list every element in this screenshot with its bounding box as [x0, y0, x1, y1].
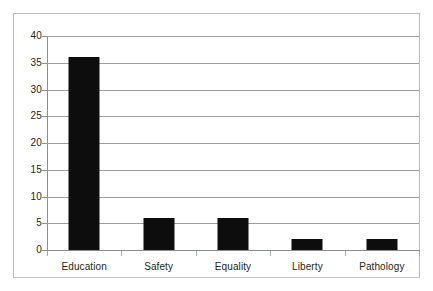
x-axis-tick [270, 251, 271, 256]
y-axis-tick [42, 116, 47, 117]
bar[interactable] [218, 218, 249, 250]
y-axis-tick-label: 10 [18, 192, 42, 202]
x-axis-category-label: Liberty [270, 257, 344, 277]
x-axis-category-labels: EducationSafetyEqualityLibertyPathology [47, 257, 419, 277]
bar[interactable] [69, 57, 100, 250]
bar[interactable] [292, 239, 323, 250]
bar-series [47, 36, 419, 250]
bar-slot [121, 36, 195, 250]
y-axis-tick-label: 35 [18, 58, 42, 68]
x-axis-tick [121, 251, 122, 256]
y-axis-tick [42, 143, 47, 144]
y-axis-tick-label: 5 [18, 218, 42, 228]
bar[interactable] [366, 239, 397, 250]
y-axis-tick-label: 0 [18, 245, 42, 255]
bar[interactable] [143, 218, 174, 250]
bar-slot [196, 36, 270, 250]
y-axis-tick [42, 223, 47, 224]
label-band-divider [15, 277, 420, 278]
y-axis-tick-label: 25 [18, 111, 42, 121]
y-axis-tick-label: 30 [18, 85, 42, 95]
x-axis-ticks [47, 251, 419, 256]
bar-slot [270, 36, 344, 250]
x-axis-tick [345, 251, 346, 256]
y-axis-tick [42, 90, 47, 91]
y-axis-tick-label: 15 [18, 165, 42, 175]
y-axis-tick-label: 40 [18, 31, 42, 41]
x-axis-category-label: Safety [121, 257, 195, 277]
bar-slot [345, 36, 419, 250]
chart-frame: 4035302520151050 EducationSafetyEquality… [13, 13, 420, 278]
x-axis-category-label: Equality [196, 257, 270, 277]
x-axis-tick [419, 251, 420, 256]
x-axis-tick [196, 251, 197, 256]
y-axis-tick [42, 197, 47, 198]
bar-slot [47, 36, 121, 250]
x-axis-tick [47, 251, 48, 256]
y-axis-tick [42, 36, 47, 37]
y-axis-tick-label: 20 [18, 138, 42, 148]
x-axis-category-label: Pathology [345, 257, 419, 277]
y-axis-tick [42, 170, 47, 171]
plot-area [47, 36, 419, 250]
y-axis-tick [42, 63, 47, 64]
x-axis-category-label: Education [47, 257, 121, 277]
